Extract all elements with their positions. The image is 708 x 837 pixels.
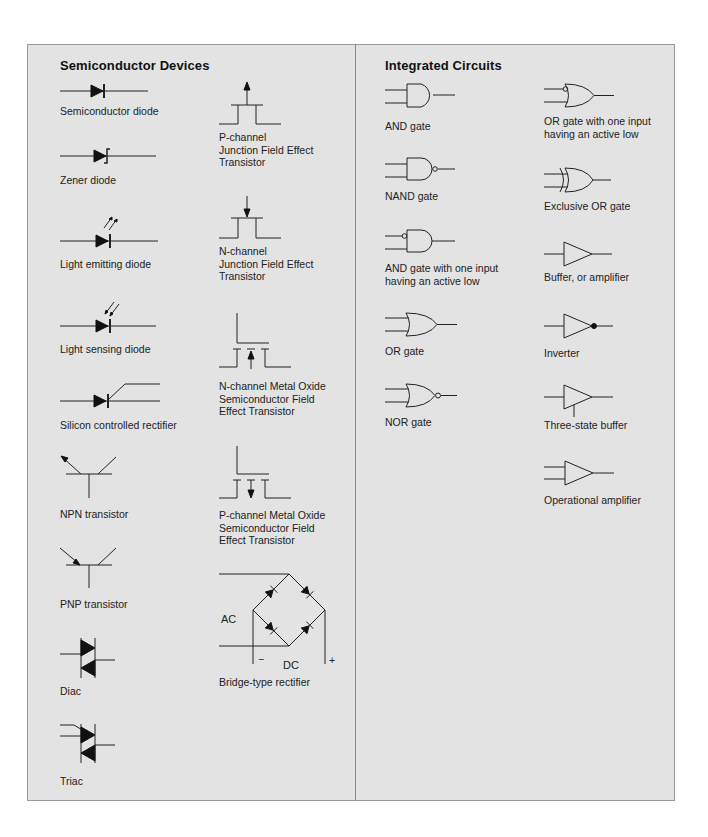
pnp-transistor-label: PNP transistor [60, 598, 128, 611]
xor-gate-label: Exclusive OR gate [544, 200, 630, 213]
n-channel-mosfet-label: N-channel Metal Oxide Semiconductor Fiel… [219, 380, 326, 418]
bridge-minus-label: − [258, 653, 264, 666]
nor-gate-icon [385, 383, 465, 413]
and-gate-active-low-icon [385, 229, 465, 259]
led-label: Light emitting diode [60, 258, 151, 271]
buffer-label: Buffer, or amplifier [544, 271, 629, 284]
pnp-transistor-icon [60, 546, 140, 591]
bridge-dc-label: DC [283, 659, 299, 672]
or-gate-label: OR gate [385, 345, 424, 358]
semiconductor-devices-heading: Semiconductor Devices [60, 58, 210, 73]
bridge-ac-label: AC [221, 613, 236, 626]
integrated-circuits-heading: Integrated Circuits [385, 58, 502, 73]
op-amp-icon [544, 460, 629, 490]
p-channel-mosfet-label: P-channel Metal Oxide Semiconductor Fiel… [219, 509, 325, 547]
n-channel-jfet-label: N-channel Junction Field Effect Transist… [219, 245, 313, 283]
buffer-icon [544, 241, 629, 271]
column-divider [355, 44, 356, 801]
and-gate-active-low-label: AND gate with one input having an active… [385, 262, 498, 287]
nand-gate-icon [385, 157, 465, 187]
and-gate-icon [385, 83, 465, 113]
three-state-buffer-label: Three-state buffer [544, 419, 627, 432]
bridge-plus-label: + [329, 654, 335, 667]
triac-icon [60, 724, 120, 764]
three-state-buffer-icon [544, 384, 629, 420]
xor-gate-icon [544, 167, 629, 197]
npn-transistor-label: NPN transistor [60, 508, 128, 521]
zener-diode-label: Zener diode [60, 174, 116, 187]
bridge-rectifier-label: Bridge-type rectifier [219, 676, 310, 689]
diac-label: Diac [60, 685, 81, 698]
p-channel-jfet-label: P-channel Junction Field Effect Transist… [219, 131, 313, 169]
scr-icon [60, 380, 160, 410]
nand-gate-label: NAND gate [385, 190, 438, 203]
n-channel-jfet-icon [219, 196, 289, 241]
diode-icon [60, 84, 160, 104]
op-amp-label: Operational amplifier [544, 494, 641, 507]
or-gate-icon [385, 312, 465, 342]
p-channel-jfet-icon [219, 80, 289, 125]
diode-label: Semiconductor diode [60, 105, 159, 118]
nor-gate-label: NOR gate [385, 416, 432, 429]
or-gate-active-low-label: OR gate with one input having an active … [544, 115, 651, 140]
npn-transistor-icon [60, 455, 140, 500]
zener-diode-icon [60, 148, 160, 168]
scr-label: Silicon controlled rectifier [60, 419, 177, 432]
inverter-label: Inverter [544, 347, 580, 360]
or-gate-active-low-icon [544, 83, 629, 113]
photodiode-label: Light sensing diode [60, 343, 151, 356]
triac-label: Triac [60, 775, 83, 788]
diac-icon [60, 638, 120, 678]
and-gate-label: AND gate [385, 120, 431, 133]
p-channel-mosfet-icon [219, 446, 294, 506]
led-icon [60, 210, 160, 245]
photodiode-icon [60, 296, 160, 331]
inverter-icon [544, 313, 629, 343]
n-channel-mosfet-icon [219, 313, 294, 373]
